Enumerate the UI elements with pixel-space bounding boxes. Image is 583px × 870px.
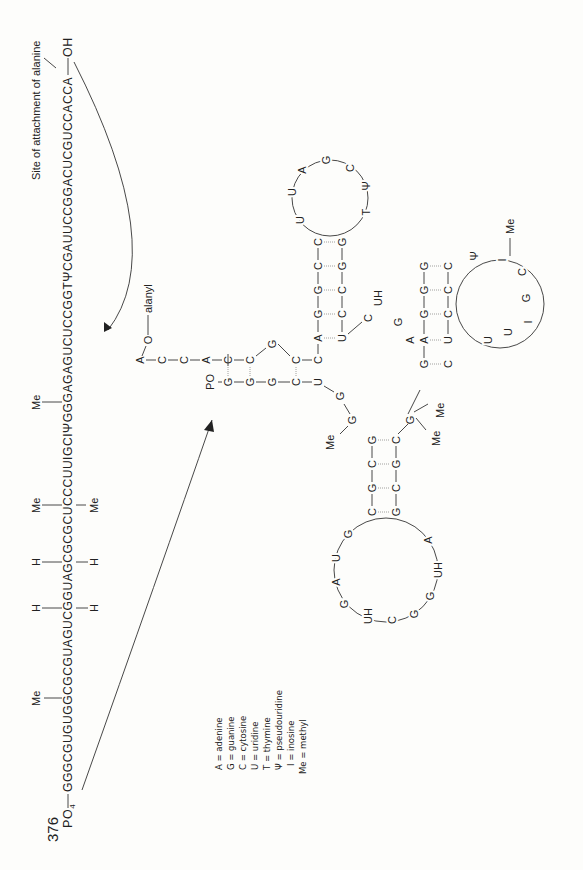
nucleotide: C: [178, 356, 190, 364]
five-prime-arrow: [82, 420, 212, 790]
nucleotide: U: [286, 188, 298, 196]
three-prime-oh: OH: [61, 37, 75, 57]
nucleotide: G: [366, 484, 378, 493]
svg-text:A = adenine: A = adenine: [214, 717, 224, 770]
sequence-text: GGGCGUGUGGCGCGUAGUCGGUAGCGCGCUCCCUUIGCIΨ…: [61, 77, 75, 792]
nucleotide: U: [330, 554, 342, 562]
nucleotide: C: [390, 484, 402, 492]
nucleotide: C: [290, 356, 302, 364]
nucleotide: C: [442, 360, 454, 368]
nucleotide: G: [520, 294, 532, 303]
nucleotide: G: [312, 286, 324, 295]
nucleotide: A: [330, 578, 342, 586]
nucleotide: G: [244, 378, 256, 387]
nucleotide: U: [482, 336, 494, 344]
svg-text:Me: Me: [30, 691, 42, 706]
svg-text:H: H: [30, 558, 42, 566]
svg-text:Me: Me: [30, 498, 42, 513]
nucleotide: Ψ: [360, 181, 372, 190]
arrow-head-icon: [204, 420, 214, 432]
nucleotide: U: [294, 216, 306, 224]
svg-text:T = thymine: T = thymine: [262, 717, 272, 771]
svg-text:G = guanine: G = guanine: [226, 717, 236, 770]
five-prime-phosphate: PO4: [61, 804, 77, 828]
nucleotide: I: [496, 258, 508, 261]
anticodon-loop-circle: [456, 260, 544, 348]
nucleotide: G: [418, 310, 430, 319]
nucleotide: G: [346, 416, 358, 425]
modification-me-1: Me: [30, 691, 62, 706]
nucleotide: C: [366, 508, 378, 516]
nucleotide: C: [442, 262, 454, 270]
nucleotide: T: [360, 208, 372, 215]
nucleotide: C: [344, 164, 356, 172]
nucleotide: G: [336, 262, 348, 271]
legend: A = adenine G = guanine C = cytosine U =…: [214, 690, 308, 774]
nucleotide: A: [312, 334, 324, 342]
nucleotide: C: [336, 310, 348, 318]
me-label: Me: [504, 219, 516, 234]
nucleotide: G: [390, 508, 402, 517]
me-label: Me: [430, 431, 442, 446]
nucleotide: A: [422, 536, 434, 544]
arrow-head-icon: [104, 322, 112, 332]
nucleotide: C: [442, 310, 454, 318]
nucleotide: A: [418, 336, 430, 344]
nucleotide: G: [336, 238, 348, 247]
me-label: Me: [324, 435, 336, 450]
site-label: Site of attachment of alanine: [30, 41, 42, 180]
nucleotide: UH: [432, 562, 444, 578]
nucleotide: C: [244, 356, 256, 364]
nucleotide: A: [134, 356, 146, 364]
nucleotide: C: [312, 238, 324, 246]
nucleotide: C: [336, 286, 348, 294]
svg-text:Me = methyl: Me = methyl: [298, 719, 308, 774]
svg-text:H: H: [88, 604, 100, 612]
nucleotide: O: [142, 335, 154, 344]
modification-me-3: Me: [30, 395, 62, 410]
nucleotide: G: [418, 360, 430, 369]
svg-text:Me: Me: [30, 395, 42, 410]
svg-text:H: H: [88, 558, 100, 566]
nucleotide: G: [266, 378, 278, 387]
cloverleaf: O alanyl A C C A C C G PO G G G C C: [134, 156, 544, 624]
nucleotide: C: [442, 286, 454, 294]
svg-text:I = inosine: I = inosine: [286, 721, 296, 766]
nucleotide: G: [424, 592, 436, 601]
nucleotide: G: [342, 530, 354, 539]
three-prime-arrow: [74, 62, 132, 330]
nucleotide: C: [362, 314, 374, 322]
nucleotide: U: [502, 328, 514, 336]
nucleotide: G: [320, 156, 332, 165]
nucleotide: A: [296, 166, 308, 174]
alanyl-label: alanyl: [142, 284, 154, 313]
nucleotide: G: [334, 392, 346, 401]
nucleotide: UH: [372, 290, 384, 306]
nucleotide: G: [418, 286, 430, 295]
nucleotide: C: [312, 262, 324, 270]
svg-text:H: H: [30, 604, 42, 612]
svg-text:U = uridine: U = uridine: [250, 722, 260, 770]
nucleotide: G: [418, 262, 430, 271]
nucleotide: U: [312, 378, 324, 386]
nucleotide: C: [516, 268, 528, 276]
svg-text:Ψ = pseudouridine: Ψ = pseudouridine: [274, 690, 284, 770]
nucleotide: UH: [362, 608, 374, 624]
nucleotide: U: [442, 336, 454, 344]
nucleotide: G: [338, 600, 350, 609]
nucleotide: G: [404, 416, 416, 425]
nucleotide: G: [366, 436, 378, 445]
nucleotide: A: [404, 336, 416, 344]
site-pointer-line: [44, 58, 56, 68]
cloverleaf-five-prime: PO: [204, 374, 216, 390]
nucleotide: U: [336, 334, 348, 342]
page-number: 376: [44, 817, 61, 842]
svg-text:Me: Me: [88, 498, 100, 513]
nucleotide: I: [522, 320, 534, 323]
nucleotide: C: [366, 460, 378, 468]
nucleotide: C: [386, 616, 398, 624]
nucleotide: G: [222, 378, 234, 387]
nucleotide: G: [312, 310, 324, 319]
nucleotide: G: [392, 318, 404, 327]
nucleotide: C: [156, 356, 168, 364]
